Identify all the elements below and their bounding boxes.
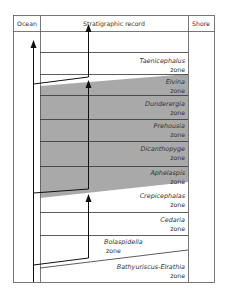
zone-word: zone bbox=[170, 66, 185, 73]
zone-word: zone bbox=[170, 109, 185, 116]
record-header: Stratigraphic record bbox=[83, 20, 145, 28]
zone-word: zone bbox=[106, 247, 121, 254]
stratigraphic-diagram: Ocean Stratigraphic record Shore Taenice… bbox=[0, 0, 227, 301]
zone-word: zone bbox=[170, 87, 185, 94]
zone-label-crepicephalas: Crepicephalas bbox=[140, 192, 186, 200]
shore-header: Shore bbox=[192, 20, 210, 27]
zone-label-dicanthopyge: Dicanthopyge bbox=[141, 145, 186, 153]
zone-word: zone bbox=[170, 178, 185, 185]
zone-label-prehousia: Prehousia bbox=[154, 122, 186, 130]
zone-word: zone bbox=[170, 272, 185, 279]
zone-label-bathyuriscus-elrathia: Bathyuriscus-Elrathia bbox=[117, 263, 185, 271]
zone-word: zone bbox=[170, 154, 185, 161]
ocean-header: Ocean bbox=[17, 20, 37, 27]
zone-label-elvina: Elvina bbox=[166, 78, 185, 86]
arrow-up-icon bbox=[31, 40, 37, 48]
zone-label-aphelaspis: Aphelaspis bbox=[149, 169, 185, 177]
shaded-transgression-region bbox=[40, 74, 188, 198]
zone-label-taenicephalus: Taenicephalus bbox=[139, 57, 185, 65]
zone-label-dunderergia: Dunderergia bbox=[145, 100, 185, 108]
zone-label-cedaria: Cedaria bbox=[160, 216, 185, 224]
zone-word: zone bbox=[170, 201, 185, 208]
zone-label-bolaspidella: Bolaspidella bbox=[104, 238, 143, 246]
zone-word: zone bbox=[170, 131, 185, 138]
arrow-up-icon bbox=[86, 194, 92, 202]
zone-word: zone bbox=[170, 225, 185, 232]
